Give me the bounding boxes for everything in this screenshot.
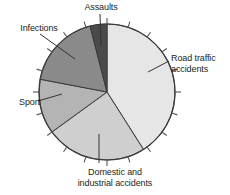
pie-label-assaults: Assaults	[70, 2, 132, 13]
pie-label-sport: Sport	[0, 97, 40, 108]
pie-slices	[39, 24, 175, 160]
pie-label-road-traffic-accidents: Road traffic accidents	[171, 53, 229, 74]
pie-chart-figure: Assaults Infections Sport Road traffic a…	[0, 0, 230, 195]
pie-label-road-traffic-line2: accidents	[171, 64, 208, 74]
pie-label-infections: Infections	[6, 23, 72, 34]
pie-label-domestic-line2: industrial accidents	[78, 178, 153, 188]
pie-label-domestic-and-industrial-accidents: Domestic and industrial accidents	[55, 167, 175, 188]
pie-label-road-traffic-line1: Road traffic	[171, 53, 216, 63]
pie-label-domestic-line1: Domestic and	[88, 167, 142, 177]
